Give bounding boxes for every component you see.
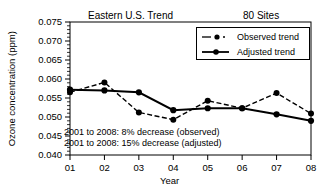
legend-swatch-adjusted [201, 45, 235, 59]
data-point-adjusted [308, 118, 314, 124]
data-point-adjusted [101, 87, 107, 93]
data-point-adjusted [170, 107, 176, 113]
chart-legend: Observed trend Adjusted trend [196, 27, 310, 60]
ozone-trend-chart: Ozone concentration (ppm) Eastern U.S. T… [0, 0, 329, 196]
data-point-adjusted [205, 105, 211, 111]
data-point-observed [170, 117, 176, 123]
data-point-adjusted [136, 89, 142, 95]
legend-label-observed: Observed trend [237, 32, 299, 42]
data-point-observed [101, 79, 107, 85]
data-point-adjusted [239, 105, 245, 111]
legend-label-adjusted: Adjusted trend [237, 47, 295, 57]
data-point-observed [308, 111, 314, 117]
data-point-observed [205, 98, 211, 104]
data-point-adjusted [273, 111, 279, 117]
legend-swatch-observed [201, 30, 235, 44]
data-point-observed [274, 90, 280, 96]
data-point-adjusted [67, 87, 73, 93]
data-point-observed [136, 109, 142, 115]
